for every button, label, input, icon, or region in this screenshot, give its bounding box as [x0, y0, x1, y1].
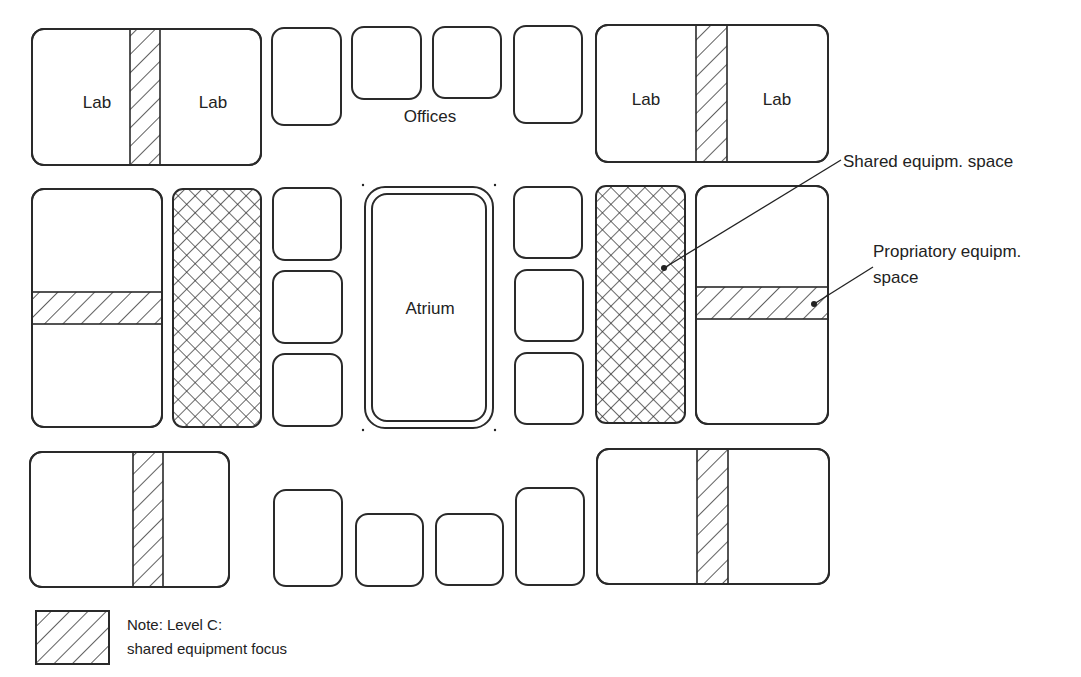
- office-room: [272, 28, 341, 125]
- mid-right-lab: [696, 186, 828, 424]
- corner-mark: [362, 429, 364, 431]
- proprietary-label-line1: Propriatory equipm.: [873, 242, 1021, 261]
- bottom-right-lab: [597, 449, 829, 584]
- proprietary-equipment-band: [32, 292, 162, 324]
- shared-equipment-label: Shared equipm. space: [843, 152, 1013, 171]
- lab-label: Lab: [199, 93, 227, 112]
- legend-hatch-swatch: [36, 611, 109, 664]
- shared-left-space: [173, 189, 261, 427]
- office-room: [436, 514, 503, 585]
- office-room: [515, 270, 583, 341]
- office-room: [273, 354, 342, 426]
- lab-label: Lab: [632, 90, 660, 109]
- mid-left-lab: [32, 189, 162, 427]
- shared-leader-dot: [661, 265, 667, 271]
- office-room: [273, 188, 341, 260]
- top-right-lab: LabLab: [596, 25, 828, 162]
- proprietary-equipment-band: [133, 452, 163, 587]
- bottom-left-lab: [30, 452, 229, 587]
- office-room: [273, 271, 342, 343]
- office-room: [356, 514, 423, 586]
- floor-plan-diagram: LabLabLabLab Offices Atrium Shared equip…: [0, 0, 1081, 677]
- offices-label: Offices: [404, 107, 457, 126]
- office-room: [515, 353, 583, 424]
- proprietary-label-line2: space: [873, 268, 918, 287]
- proprietary-equipment-band: [697, 449, 728, 584]
- corner-mark: [494, 429, 496, 431]
- office-room: [352, 27, 421, 99]
- legend: Note: Level C:shared equipment focus: [36, 611, 287, 664]
- office-room: [514, 187, 582, 258]
- lab-outline: [30, 452, 229, 587]
- office-room: [516, 488, 584, 585]
- legend-text-line1: Note: Level C:: [127, 616, 222, 633]
- office-room: [433, 27, 501, 98]
- legend-text-line2: shared equipment focus: [127, 640, 287, 657]
- atrium-label: Atrium: [405, 299, 454, 318]
- atrium: Atrium: [362, 184, 496, 431]
- lab-label: Lab: [763, 90, 791, 109]
- office-room: [274, 490, 342, 586]
- top-left-lab: LabLab: [32, 29, 261, 165]
- lab-label: Lab: [83, 93, 111, 112]
- corner-mark: [362, 184, 364, 186]
- office-room: [514, 26, 582, 123]
- corner-mark: [494, 184, 496, 186]
- shared-right-space: [596, 186, 685, 423]
- proprietary-leader-dot: [811, 301, 817, 307]
- proprietary-equipment-band: [696, 287, 828, 319]
- proprietary-equipment-band: [696, 25, 727, 162]
- proprietary-equipment-band: [130, 29, 160, 165]
